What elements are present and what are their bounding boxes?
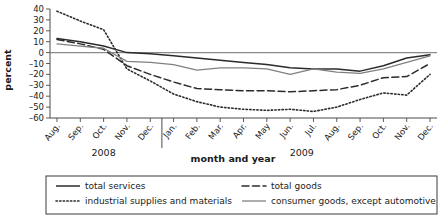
chart-legend: total servicestotal goodsindustrial supp… [46,176,437,214]
x-axis-title-text: month and year [191,153,276,164]
x-axis-ticks: Aug.Sep.Oct.Nov.Dec.Jan.Feb.Mar.Apr.MayJ… [42,118,435,142]
y-tick-label: –10 [29,59,44,69]
y-tick-label: 30 [33,15,44,25]
legend-label: consumer goods, except automotive [271,196,436,206]
x-tick-label: Aug. [322,121,342,142]
x-tick-label: Jul. [302,121,318,138]
y-tick-label: 20 [33,26,44,36]
x-tick-label: Oct. [370,121,389,141]
x-tick-label: Aug. [42,121,62,142]
axes-lines [50,9,437,118]
x-tick-label: May [253,121,272,141]
x-tick-label: Dec. [415,121,435,142]
x-tick-label: Jan. [160,121,178,140]
y-tick-label: –40 [29,91,44,101]
x-tick-label: Oct. [90,121,109,141]
x-tick-label: Mar. [206,121,225,141]
y-tick-label: –30 [29,80,44,90]
series-line-0 [57,38,430,71]
legend-item[interactable]: consumer goods, except automotive [242,196,436,206]
x-tick-label: Dec. [136,121,156,142]
y-tick-label: –60 [29,113,44,123]
y-axis-title: percent [2,49,13,91]
x-tick-label: Sep. [66,121,85,142]
legend-label: industrial supplies and materials [85,196,232,206]
y-tick-label: 0 [39,48,44,58]
x-tick-label: Jun. [277,121,295,141]
line-chart-canvas: percent 403020100–10–20–30–40–50–60 Aug.… [0,0,445,220]
data-series-group [57,11,430,111]
x-tick-label: Apr. [230,121,248,140]
legend-item[interactable]: total services [56,181,146,191]
y-tick-label: –20 [29,69,44,79]
x-tick-label: Sep. [346,121,365,142]
y-axis-title-text: percent [2,49,13,91]
legend-label: total services [85,181,146,191]
y-axis-ticks: 403020100–10–20–30–40–50–60 [29,4,50,123]
series-line-2 [57,11,430,111]
x-tick-label: Feb. [183,121,202,141]
legend-item[interactable]: total goods [242,181,322,191]
y-tick-label: 40 [33,4,44,14]
legend-item[interactable]: industrial supplies and materials [56,196,232,206]
x-tick-label: Nov. [392,121,411,142]
year-group-label: 2009 [290,147,314,158]
series-line-1 [57,40,430,92]
year-group-label: 2008 [92,147,116,158]
y-tick-label: –50 [29,102,44,112]
y-tick-label: 10 [33,37,44,47]
x-tick-label: Nov. [113,121,132,142]
chart-figure: percent 403020100–10–20–30–40–50–60 Aug.… [0,0,445,220]
legend-label: total goods [271,181,322,191]
